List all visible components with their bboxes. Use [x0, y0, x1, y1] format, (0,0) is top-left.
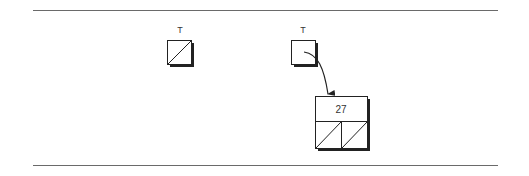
pointer-label-before: T: [177, 25, 183, 35]
diagram-canvas: [0, 0, 529, 176]
pointer-box-before: [168, 41, 195, 68]
pointer-box-after: [292, 41, 319, 68]
pointer-label-after: T: [300, 25, 306, 35]
node-value: 27: [335, 104, 346, 115]
